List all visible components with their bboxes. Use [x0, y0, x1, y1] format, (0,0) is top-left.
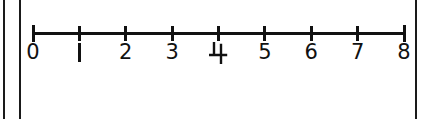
tick-label-4 — [209, 42, 229, 64]
tick-label-6: 6 — [291, 40, 331, 64]
number-line: 0235678 — [0, 0, 432, 119]
number-line-screenshot: 0235678 — [0, 0, 432, 119]
tick-mark-4 — [217, 26, 220, 41]
tick-label-8: 8 — [384, 40, 424, 64]
tick-mark-2 — [124, 26, 127, 41]
tick-label-3: 3 — [152, 40, 192, 64]
tick-mark-6 — [310, 26, 313, 41]
tick-mark-7 — [356, 26, 359, 41]
tick-label-1 — [78, 43, 81, 62]
tick-mark-5 — [263, 26, 266, 41]
tick-mark-1 — [78, 26, 81, 41]
tick-label-7: 7 — [338, 40, 378, 64]
tick-label-2: 2 — [106, 40, 146, 64]
tick-label-0: 0 — [13, 40, 53, 64]
tick-mark-3 — [171, 26, 174, 41]
tick-label-5: 5 — [245, 40, 285, 64]
